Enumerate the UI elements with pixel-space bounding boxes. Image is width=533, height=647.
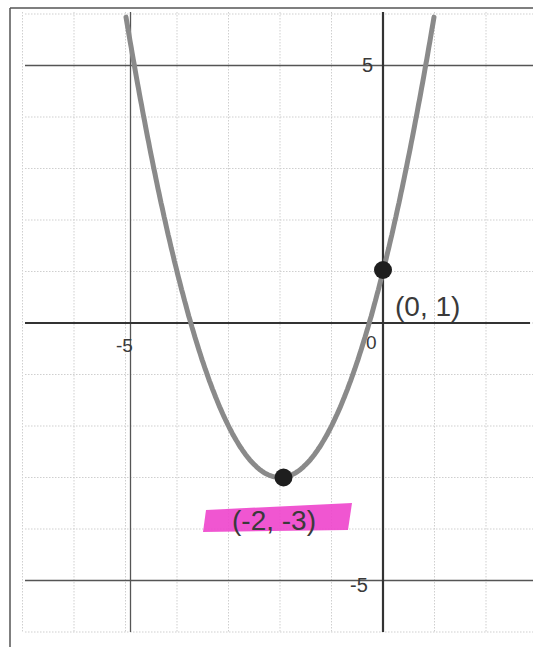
intercept-label: (0, 1) (395, 291, 460, 322)
y-intercept-point (374, 261, 392, 279)
y-tick-5: 5 (362, 54, 373, 76)
parabola-graph: -5 0 5 -5 (-2, -3) (0, 1) (0, 0, 533, 647)
y-tick-neg5: -5 (350, 574, 368, 596)
vertex-label: (-2, -3) (232, 505, 316, 536)
vertex-point (275, 469, 293, 487)
x-tick-neg5: -5 (116, 335, 133, 356)
